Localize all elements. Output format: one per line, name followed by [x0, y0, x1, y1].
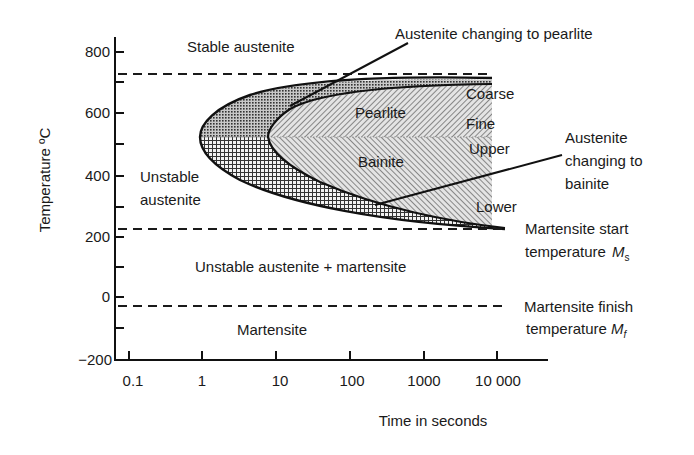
mf-text: temperature	[526, 320, 607, 337]
label-lower: Lower	[476, 198, 517, 215]
annotation-mf-2: temperatureMf	[526, 320, 627, 340]
ttt-diagram: 800 600 400 200 0 −200 0.1 1 10 100 1000…	[0, 0, 694, 455]
y-tick-neg200: −200	[78, 351, 112, 368]
label-bainite: Bainite	[358, 153, 404, 170]
ms-text: temperature	[525, 243, 606, 260]
x-tick-10: 10	[272, 372, 289, 389]
y-tick-400: 400	[85, 167, 110, 184]
mf-subscript: f	[623, 329, 627, 340]
annotation-ms-1: Martensite start	[525, 220, 629, 237]
annotation-mf-1: Martensite finish	[524, 298, 633, 315]
x-axis-label: Time in seconds	[379, 412, 488, 429]
y-ticks	[115, 52, 124, 328]
label-pearlite: Pearlite	[355, 104, 406, 121]
x-tick-100: 100	[339, 372, 364, 389]
x-ticks	[129, 351, 497, 360]
annotation-to-bainite-2: changing to	[565, 152, 643, 169]
label-stable-austenite: Stable austenite	[187, 38, 295, 55]
label-upper: Upper	[469, 140, 510, 157]
annotation-ms-2: temperatureMs	[525, 243, 629, 263]
annotation-to-bainite-3: bainite	[565, 175, 609, 192]
label-fine: Fine	[466, 115, 495, 132]
y-tick-0: 0	[102, 288, 110, 305]
x-tick-1: 1	[198, 372, 206, 389]
x-tick-0.1: 0.1	[123, 372, 144, 389]
ms-subscript: s	[624, 252, 629, 263]
annotation-to-bainite-1: Austenite	[565, 129, 628, 146]
x-tick-1000: 1000	[407, 372, 440, 389]
y-tick-600: 600	[85, 104, 110, 121]
label-unstable-austenite-1: Unstable	[140, 168, 199, 185]
y-tick-200: 200	[85, 228, 110, 245]
label-unstable-plus-martensite: Unstable austenite + martensite	[195, 258, 406, 275]
transformation-band	[200, 77, 505, 229]
y-axis-label: Temperature ºC	[36, 127, 53, 232]
y-tick-800: 800	[85, 43, 110, 60]
mf-symbol: M	[611, 320, 624, 337]
label-unstable-austenite-2: austenite	[140, 191, 201, 208]
label-coarse: Coarse	[466, 85, 514, 102]
ms-symbol: M	[612, 243, 625, 260]
label-martensite: Martensite	[237, 321, 307, 338]
x-tick-10000: 10 000	[475, 372, 521, 389]
annotation-to-pearlite: Austenite changing to pearlite	[395, 25, 593, 42]
